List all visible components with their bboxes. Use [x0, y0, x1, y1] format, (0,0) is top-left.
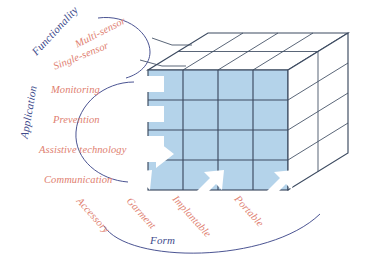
classification-cube-figure: .edge { stroke:#3c4a60; stroke-width:1.1… [0, 0, 380, 262]
form-arc [104, 214, 320, 253]
application-arc [76, 82, 134, 182]
application-banners [100, 76, 174, 168]
functionality-arc [98, 17, 150, 78]
cube-graphic: .edge { stroke:#3c4a60; stroke-width:1.1… [0, 0, 380, 262]
